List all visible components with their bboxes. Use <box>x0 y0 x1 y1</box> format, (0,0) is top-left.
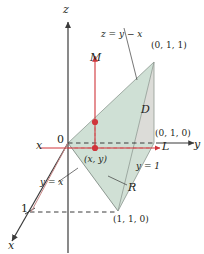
label-y-equals-one: y = 1 <box>136 162 160 171</box>
x-tick-label-1: 1 <box>21 203 28 214</box>
math-figure-3d-region: z y x 0 1 z = y − x (0, 1, 1) (0, 1, 0) … <box>0 0 204 254</box>
axis-label-z: z <box>63 4 69 15</box>
label-point-xy: (x, y) <box>84 155 107 164</box>
vertex-label-0-1-0: (0, 1, 0) <box>155 129 191 138</box>
region-D-label: D <box>141 104 150 115</box>
origin-label: 0 <box>57 134 64 145</box>
plane-equation-label: z = y − x <box>101 30 142 39</box>
vertex-label-1-1-0: (1, 1, 0) <box>113 215 149 224</box>
region-R-label: R <box>128 182 136 193</box>
segment-L-label: L <box>162 141 169 152</box>
solid-body <box>68 62 154 211</box>
label-x-in-plane: x <box>36 140 42 151</box>
point-xy-dot <box>92 145 98 151</box>
axis-label-y: y <box>194 139 200 150</box>
vertex-label-0-1-1: (0, 1, 1) <box>151 41 187 50</box>
point-on-plane-dot <box>92 119 98 125</box>
segment-M-label: M <box>90 52 101 63</box>
axis-label-x: x <box>8 240 14 251</box>
label-y-equals-x: y = x <box>40 178 63 187</box>
